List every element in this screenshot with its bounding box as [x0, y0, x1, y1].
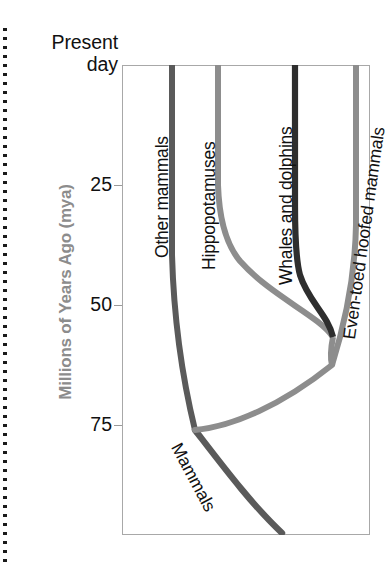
present-day-label: Present day	[18, 31, 118, 75]
branch-mammals-root	[195, 430, 282, 533]
branch-artiodactyl-stem	[195, 365, 332, 430]
label-whales-and-dolphins: Whales and dolphins	[277, 126, 295, 285]
y-axis-title: Millions of Years Ago (mya)	[56, 162, 76, 422]
left-dotted-rule	[3, 28, 7, 566]
y-tick-label-25: 25	[66, 175, 112, 195]
label-other-mammals: Other mammals	[153, 136, 171, 258]
branch-whales-and-dolphins	[295, 65, 333, 337]
y-tick-label-75: 75	[66, 415, 112, 435]
y-tick-label-50: 50	[66, 295, 112, 315]
label-hippopotamuses: Hippopotamuses	[200, 141, 218, 270]
phylogenetic-tree-figure: Present day Millions of Years Ago (mya) …	[0, 0, 388, 572]
branch-whippomorpha-stem	[331, 337, 333, 365]
branch-other-mammals	[172, 65, 195, 430]
